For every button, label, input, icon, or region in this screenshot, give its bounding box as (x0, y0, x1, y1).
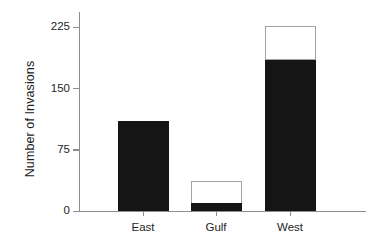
x-tick-mark-east (143, 211, 144, 216)
y-tick-mark-75 (73, 149, 79, 150)
y-tick-mark-0 (73, 211, 79, 212)
plot-area: 225 150 75 0 East Gulf West (0, 0, 374, 244)
bar-chart: Number of Invasions 225 150 75 0 (0, 0, 374, 244)
x-tick-mark-gulf (216, 211, 217, 216)
y-tick-label-225: 225 (51, 21, 70, 33)
x-tick-mark-west (290, 211, 291, 216)
y-tick-label-0: 0 (64, 205, 70, 217)
x-axis-line (79, 211, 366, 213)
bar-gulf-dark-segment (191, 203, 242, 210)
bar-gulf-light-segment (191, 181, 242, 205)
y-tick-mark-150 (73, 88, 79, 89)
bar-west-light-segment (265, 26, 316, 60)
x-tick-label-east: East (108, 221, 178, 233)
y-tick-mark-225 (73, 27, 79, 28)
x-tick-label-gulf: Gulf (181, 221, 251, 233)
bar-west-dark-segment (265, 60, 316, 211)
bar-east-dark-segment (118, 121, 169, 211)
x-tick-label-west: West (255, 221, 325, 233)
y-tick-label-150: 150 (51, 83, 70, 95)
y-axis-line (79, 12, 80, 211)
y-tick-label-75: 75 (57, 144, 70, 156)
